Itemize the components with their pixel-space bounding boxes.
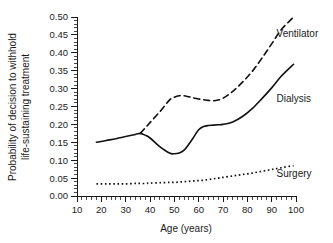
y-tick-label: 0.25	[50, 101, 69, 112]
x-axis-ticks	[77, 196, 296, 202]
y-tick-label: 0.35	[50, 65, 69, 76]
y-tick-label: 0.30	[50, 83, 69, 94]
y-axis-title-line1: Probability of decision to withhold	[7, 33, 18, 181]
series-label-ventilator: Ventilator	[277, 28, 319, 39]
series-curve-surgery	[96, 166, 293, 184]
chart-figure: 0.000.050.100.150.200.250.300.350.400.45…	[0, 0, 333, 243]
line-chart: 0.000.050.100.150.200.250.300.350.400.45…	[0, 0, 333, 243]
y-axis-ticks	[71, 17, 77, 196]
series-label-dialysis: Dialysis	[277, 93, 311, 104]
y-tick-label: 0.40	[50, 47, 69, 58]
y-tick-label: 0.10	[50, 155, 69, 166]
data-series-curves	[96, 17, 293, 184]
x-tick-label: 60	[193, 204, 204, 215]
series-curve-ventilator	[140, 17, 293, 133]
series-curve-dialysis	[96, 64, 293, 154]
x-axis-title: Age (years)	[160, 223, 212, 234]
y-axis-title-line2: life-sustaining treatment	[20, 54, 31, 160]
axes	[77, 17, 296, 196]
y-tick-label: 0.20	[50, 119, 69, 130]
x-tick-label: 30	[120, 204, 131, 215]
y-tick-label: 0.05	[50, 173, 69, 184]
y-tick-label: 0.45	[50, 29, 69, 40]
x-tick-label: 20	[96, 204, 107, 215]
series-label-surgery: Surgery	[277, 168, 312, 179]
y-tick-label: 0.50	[50, 11, 69, 22]
x-tick-label: 90	[266, 204, 277, 215]
x-tick-label: 50	[169, 204, 180, 215]
x-tick-label: 10	[72, 204, 83, 215]
x-axis-tick-labels: 102030405060708090100	[72, 204, 304, 215]
series-labels: VentilatorDialysisSurgery	[277, 28, 319, 179]
y-tick-label: 0.15	[50, 137, 69, 148]
x-tick-label: 80	[242, 204, 253, 215]
x-tick-label: 40	[145, 204, 156, 215]
x-tick-label: 70	[218, 204, 229, 215]
x-tick-label: 100	[288, 204, 304, 215]
y-tick-label: 0.00	[50, 190, 69, 201]
y-axis-tick-labels: 0.000.050.100.150.200.250.300.350.400.45…	[50, 11, 69, 201]
